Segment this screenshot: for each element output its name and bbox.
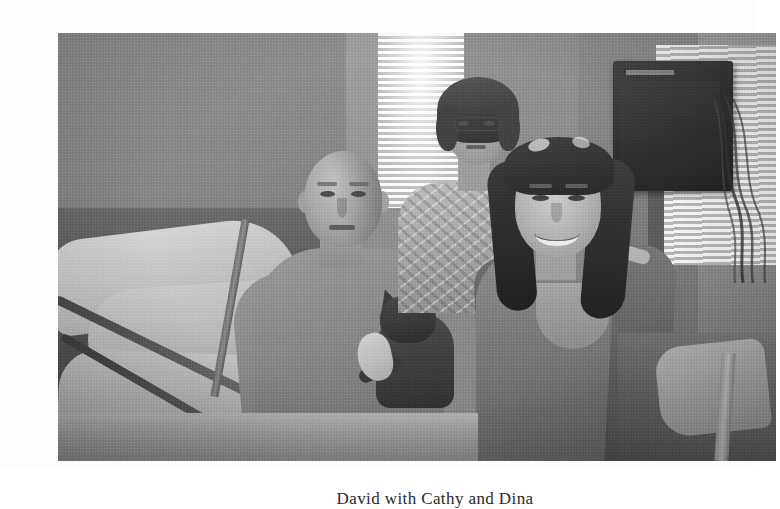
photo-caption: David with Cathy and Dina xyxy=(76,489,780,509)
hospital-room-photo xyxy=(58,33,776,461)
scan-tone-overlay xyxy=(58,33,776,461)
photo-figure: David with Cathy and Dina xyxy=(58,33,776,461)
